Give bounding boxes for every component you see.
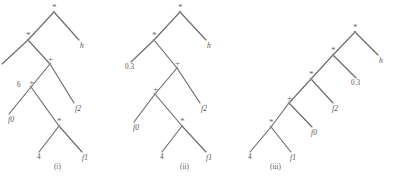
tree-i-node-leaf-f2: f2 [75, 105, 81, 113]
tree-edge [9, 87, 31, 114]
tree-edge [333, 32, 355, 55]
tree-iii-node-leaf-f1: f1 [290, 154, 296, 162]
tree-edges-layer [0, 0, 399, 179]
tree-i-node-leaf-h: h [80, 42, 84, 50]
tree-ii-caption: (ii) [180, 163, 189, 171]
tree-i-node-plus-outer: + [48, 55, 53, 64]
tree-edge [28, 40, 50, 64]
tree-i-node-leaf-4: 4 [37, 154, 41, 161]
tree-edge [289, 103, 312, 127]
tree-ii-node-leaf-h: h [207, 42, 211, 50]
tree-i-node-leaf-f1: f1 [82, 154, 88, 162]
tree-edge [271, 127, 291, 152]
tree-iii-nodes [270, 31, 357, 129]
tree-edge [162, 126, 182, 152]
tree-iii-node-plus-outer: * [309, 70, 314, 79]
tree-iii-node-plus-inner: + [287, 94, 292, 103]
tree-edge [155, 94, 182, 126]
tree-edge [177, 68, 200, 103]
tree-edge [28, 12, 54, 40]
tree-edge [154, 12, 180, 40]
tree-ii-node-plus-outer: + [175, 59, 180, 68]
tree-edge [311, 55, 333, 79]
tree-ii-node-leaf-f0: f0 [133, 124, 139, 132]
tree-edge [134, 94, 155, 122]
tree-iii-node-times-inner: * [331, 46, 336, 55]
tree-ii-node-root-times: * [178, 3, 183, 12]
tree-ii-node-plus-inner: + [153, 85, 158, 94]
tree-edge [250, 127, 271, 152]
tree-edge [131, 40, 154, 62]
tree-edge [59, 126, 82, 152]
tree-ii-edges [131, 12, 206, 152]
tree-ii-node-leaf-f2: f2 [201, 105, 207, 113]
tree-ii-node-leaf-f1: f1 [206, 154, 212, 162]
tree-edge [154, 40, 177, 68]
expression-trees-figure: **h6++f2f0*4f1(i)**h0.3++f2f0*4f1(ii)**h… [0, 0, 399, 179]
tree-i-node-times-leaf: * [57, 117, 62, 126]
tree-i-edges [2, 12, 82, 152]
tree-iii-node-leaf-h: h [379, 57, 383, 65]
tree-edge [333, 55, 356, 78]
tree-ii-node-leaf-const: 0.3 [125, 64, 134, 71]
tree-i-node-leaf-f0: f0 [8, 116, 14, 124]
tree-i-caption: (i) [54, 163, 61, 171]
tree-i-node-leaf-const: 6 [17, 82, 21, 89]
tree-iii-node-leaf-f0: f0 [311, 129, 317, 137]
tree-iii-node-leaf-4: 4 [248, 154, 252, 161]
tree-ii-node-times-inner: * [152, 31, 157, 40]
tree-iii-caption: (iii) [270, 163, 281, 171]
tree-edge [39, 126, 59, 152]
tree-ii-node-leaf-4: 4 [160, 154, 164, 161]
tree-edge [54, 12, 79, 40]
tree-i-nodes [27, 11, 61, 128]
tree-iii-node-times-leaf: * [269, 118, 274, 127]
tree-edge [289, 79, 311, 103]
tree-edge [311, 79, 333, 103]
tree-edge [182, 126, 206, 152]
tree-iii-node-leaf-f2: f2 [332, 105, 338, 113]
tree-i-node-times-inner: * [26, 31, 31, 40]
tree-edge [180, 12, 206, 40]
tree-iii-node-leaf-const: 0.3 [351, 80, 360, 87]
tree-edge [31, 87, 59, 126]
tree-edge [355, 32, 378, 55]
tree-edge [155, 68, 177, 94]
tree-iii-node-root-times: * [353, 23, 358, 32]
tree-i-node-root-times: * [52, 3, 57, 12]
tree-ii-node-times-leaf: * [180, 117, 185, 126]
tree-i-node-plus-inner: + [29, 78, 34, 87]
tree-edge [50, 64, 74, 103]
tree-edge [2, 40, 28, 64]
